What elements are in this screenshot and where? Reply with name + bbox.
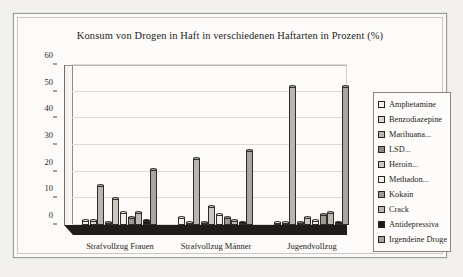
legend-swatch-icon	[378, 206, 385, 213]
y-tick-label-10: 10	[45, 183, 54, 193]
bar-rect	[320, 214, 327, 225]
y-tick-mark-20	[53, 170, 57, 171]
y-tick-label-60: 60	[45, 50, 54, 60]
legend-swatch-icon	[378, 101, 385, 108]
legend-label: LSD...	[389, 145, 411, 154]
y-tick-mark-60	[53, 64, 57, 65]
y-tick-label-30: 30	[45, 130, 54, 140]
bar-rect	[150, 169, 157, 225]
legend-item[interactable]: Irgendeine Droge	[378, 232, 447, 247]
legend-swatch-icon	[378, 116, 385, 123]
legend-item[interactable]: Amphetamine	[378, 97, 447, 112]
bar-rect	[327, 212, 334, 225]
legend-swatch-icon	[378, 221, 385, 228]
legend-swatch-icon	[378, 191, 385, 198]
y-tick-label-0: 0	[49, 210, 53, 220]
legend-item[interactable]: Kokain	[378, 187, 447, 202]
legend-item[interactable]: Marihuana...	[378, 127, 447, 142]
legend-label: Methadon...	[389, 175, 429, 184]
bar-rect	[289, 86, 296, 225]
bar-rect	[224, 217, 231, 225]
bar-rect	[246, 150, 253, 225]
legend-label: Antidepressiva	[389, 220, 439, 229]
chart-frame: Konsum von Drogen in Haft in verschieden…	[13, 13, 447, 258]
y-tick-label-50: 50	[45, 77, 54, 87]
legend-swatch-icon	[378, 146, 385, 153]
legend-label: Benzodiazepine	[389, 115, 442, 124]
legend-label: Amphetamine	[389, 100, 436, 109]
legend-label: Irgendeine Droge	[389, 235, 447, 244]
bar-rect	[97, 185, 104, 225]
bar-rect	[112, 198, 119, 225]
chart-inner-border: Konsum von Drogen in Haft in verschieden…	[17, 17, 443, 254]
bar-rect	[193, 158, 200, 225]
bar-rect	[304, 217, 311, 225]
legend-item[interactable]: Methadon...	[378, 172, 447, 187]
x-category-label: Strafvollzug Männer	[181, 241, 252, 251]
chart-title: Konsum von Drogen in Haft in verschieden…	[18, 30, 442, 41]
bar-rect	[135, 212, 142, 225]
bar-rect	[216, 214, 223, 225]
bar-rect	[208, 206, 215, 225]
legend-item[interactable]: Benzodiazepine	[378, 112, 447, 127]
legend-swatch-icon	[378, 131, 385, 138]
legend-label: Kokain	[389, 190, 413, 199]
bar-rect	[342, 86, 349, 225]
bar-rect	[128, 217, 135, 225]
legend-item[interactable]: Crack	[378, 202, 447, 217]
bar-group	[178, 65, 262, 225]
y-tick-mark-30	[53, 144, 57, 145]
bar-group	[274, 65, 358, 225]
x-category-label: Jugendvollzug	[287, 241, 337, 251]
y-tick-mark-10	[53, 197, 57, 198]
bar-rect	[120, 212, 127, 225]
legend-swatch-icon	[378, 176, 385, 183]
bar-group	[82, 65, 166, 225]
y-tick-label-20: 20	[45, 157, 54, 167]
legend-swatch-icon	[378, 236, 385, 243]
bar-rect	[178, 217, 185, 225]
legend-label: Crack	[389, 205, 409, 214]
plot-area: 0102030405060 Strafvollzug FrauenStrafvo…	[64, 65, 347, 235]
y-tick-mark-50	[53, 90, 57, 91]
chart-legend: AmphetamineBenzodiazepineMarihuana...LSD…	[373, 92, 451, 252]
legend-item[interactable]: Heroin...	[378, 157, 447, 172]
legend-label: Marihuana...	[389, 130, 431, 139]
y-tick-mark-0	[53, 224, 57, 225]
plot-floor	[64, 225, 347, 235]
legend-item[interactable]: LSD...	[378, 142, 447, 157]
legend-swatch-icon	[378, 161, 385, 168]
y-tick-mark-40	[53, 117, 57, 118]
y-tick-label-40: 40	[45, 103, 54, 113]
legend-item[interactable]: Antidepressiva	[378, 217, 447, 232]
legend-label: Heroin...	[389, 160, 418, 169]
x-category-label: Strafvollzug Frauen	[86, 241, 154, 251]
